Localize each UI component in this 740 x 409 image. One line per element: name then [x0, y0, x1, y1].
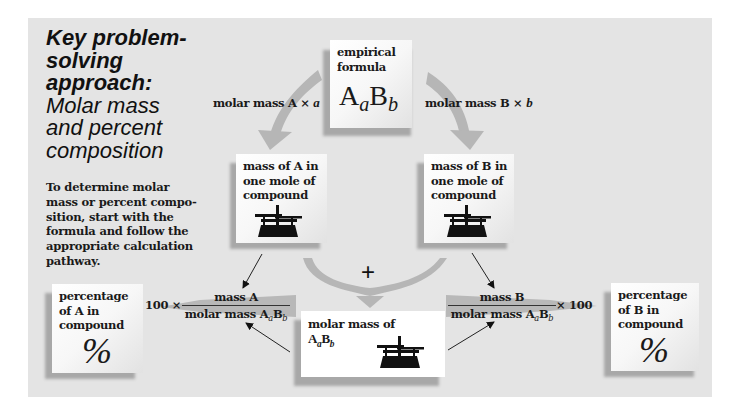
page-title: Key problem- solving approach: Molar mas… — [46, 27, 216, 162]
den-a-b: B — [273, 307, 282, 321]
edge-var-b: b — [526, 95, 532, 110]
fraction-percent-b: mass B molar mass AaBb — [448, 290, 556, 324]
formula-subscript-b: b — [388, 93, 398, 115]
molar-formula-b: B — [321, 331, 329, 346]
fraction-a-prefix: 100 × — [145, 298, 181, 312]
node-mass-a: mass of A in one mole of compound — [236, 154, 327, 243]
balance-scale-icon — [442, 205, 492, 239]
title-subtitle: Molar mass and percent composition — [46, 95, 216, 163]
thin-arrow-mass-b-to-fraction — [472, 253, 494, 288]
title-bold: Key problem- solving approach: — [46, 27, 216, 95]
molar-mass-formula: AaBb — [308, 332, 334, 351]
mass-b-label: mass of B in one mole of compound — [431, 159, 507, 203]
molar-mass-label: molar mass of — [308, 317, 395, 332]
empirical-formula-label: empirical formula — [337, 45, 395, 74]
edge-var-a: a — [313, 95, 319, 110]
fraction-b-numerator: mass B — [448, 290, 556, 305]
den-b-b: B — [539, 307, 548, 321]
empirical-formula-value: AaBb — [339, 80, 398, 116]
percent-a-label: percentage of A in compound — [59, 289, 128, 333]
edge-text-a: molar mass A × — [213, 96, 313, 110]
den-a-text: molar mass A — [185, 307, 269, 321]
fraction-b-suffix: × 100 — [556, 298, 592, 312]
node-empirical-formula: empirical formula AaBb — [330, 40, 412, 128]
curved-arrow-to-mass-b — [426, 72, 484, 150]
thin-arrow-mass-a-to-fraction — [243, 254, 262, 288]
percent-a-symbol: % — [82, 330, 112, 372]
fraction-a-numerator: mass A — [182, 290, 290, 305]
molar-formula-a: A — [308, 331, 317, 346]
edge-label-to-mass-b: molar mass B × b — [425, 95, 532, 111]
node-molar-mass: molar mass of AaBb — [301, 311, 445, 377]
description-text: To determine molar mass or percent compo… — [46, 180, 206, 269]
molar-formula-sub-b: b — [330, 339, 334, 349]
percent-b-label: percentage of B in compound — [618, 288, 687, 332]
node-percent-b: percentage of B in compound % — [611, 283, 699, 371]
thin-arrow-molar-to-fraction-a — [246, 323, 290, 352]
formula-element-b: B — [369, 80, 388, 111]
den-b-text: molar mass A — [451, 307, 535, 321]
plus-sign: + — [361, 258, 375, 286]
balance-scale-icon — [375, 336, 425, 370]
balance-scale-icon — [253, 205, 303, 239]
den-a-sub-b: b — [282, 314, 287, 324]
fraction-b-denominator: molar mass AaBb — [448, 306, 556, 323]
edge-text-b: molar mass B × — [425, 96, 526, 110]
formula-element-a: A — [339, 80, 359, 111]
fraction-percent-a: mass A molar mass AaBb — [182, 290, 290, 324]
mass-a-label: mass of A in one mole of compound — [243, 159, 318, 203]
edge-label-to-mass-a: molar mass A × a — [213, 95, 320, 111]
percent-b-symbol: % — [639, 329, 669, 371]
den-b-sub-b: b — [548, 314, 553, 324]
thin-arrow-molar-to-fraction-b — [448, 322, 494, 350]
fraction-a-denominator: molar mass AaBb — [182, 306, 290, 323]
node-mass-b: mass of B in one mole of compound — [424, 154, 514, 243]
formula-subscript-a: a — [359, 93, 369, 115]
node-percent-a: percentage of A in compound % — [52, 284, 143, 373]
